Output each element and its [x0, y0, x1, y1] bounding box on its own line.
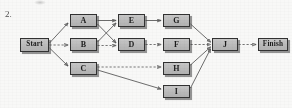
- node-G[interactable]: G: [163, 14, 190, 27]
- node-D[interactable]: D: [118, 38, 145, 51]
- edge-a-d: [98, 24, 117, 43]
- node-C[interactable]: C: [70, 62, 97, 75]
- node-finish[interactable]: Finish: [258, 38, 288, 51]
- edge-c-i: [98, 70, 162, 89]
- node-E[interactable]: E: [118, 14, 145, 27]
- edge-start-c: [50, 48, 69, 66]
- edge-layer: [0, 0, 292, 108]
- edge-g-j: [191, 24, 211, 42]
- edge-h-j: [191, 47, 211, 65]
- node-J[interactable]: J: [212, 38, 238, 51]
- diagram-page: 2.: [0, 0, 292, 108]
- node-H[interactable]: H: [163, 62, 190, 75]
- edge-i-j: [191, 49, 211, 88]
- node-start[interactable]: Start: [20, 38, 49, 52]
- node-B[interactable]: B: [70, 38, 97, 51]
- node-F[interactable]: F: [163, 38, 190, 51]
- node-A[interactable]: A: [70, 14, 97, 27]
- node-I[interactable]: I: [163, 85, 190, 98]
- edge-start-a: [50, 23, 69, 43]
- edge-b-e: [98, 23, 117, 42]
